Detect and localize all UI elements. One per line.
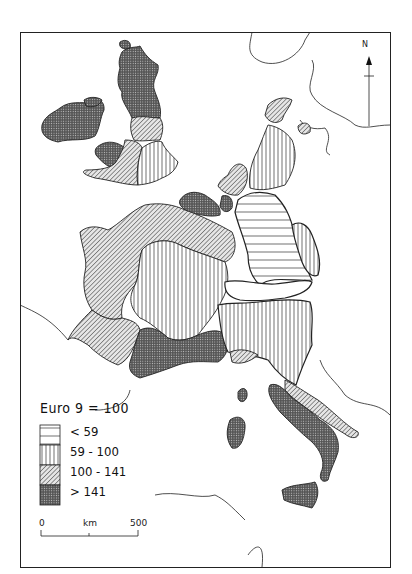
region-north-england	[131, 117, 163, 141]
region-corsica	[238, 389, 247, 402]
legend-item-gt141: > 141	[62, 481, 129, 501]
scale-start: 0	[39, 518, 45, 528]
legend-label: < 59	[70, 424, 98, 439]
legend-title: Euro 9 = 100	[40, 400, 129, 416]
region-hebrides	[120, 40, 131, 48]
scale-end: 500	[130, 518, 147, 528]
legend-label: 100 - 141	[70, 464, 126, 479]
region-ruhr	[220, 196, 232, 212]
legend-item-59-100: 59 - 100	[62, 441, 129, 461]
legend-label: 59 - 100	[70, 444, 119, 459]
legend: Euro 9 = 100 < 59 59 - 100 100 - 141 > 1…	[40, 400, 129, 501]
legend-label: > 141	[70, 484, 106, 499]
north-label: N	[362, 40, 368, 49]
legend-item-lt59: < 59	[62, 421, 129, 441]
scale-unit: km	[83, 518, 97, 528]
region-denmark-islands	[298, 123, 310, 134]
legend-item-100-141: 100 - 141	[62, 461, 129, 481]
